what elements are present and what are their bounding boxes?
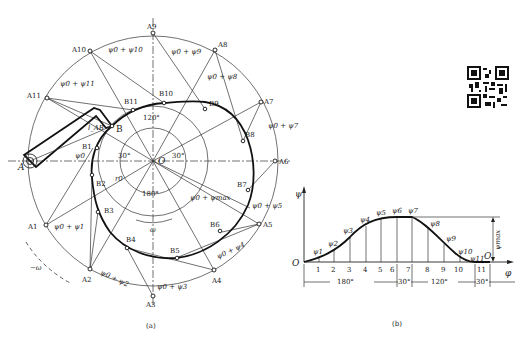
svg-text:ψ9: ψ9: [446, 235, 456, 243]
rot-label-5: ψ0 + ψ5: [252, 202, 283, 210]
svg-text:ψ8: ψ8: [430, 220, 440, 228]
label-A1: A1: [27, 223, 38, 231]
label-B11: B11: [124, 98, 138, 106]
svg-text:5: 5: [378, 266, 382, 274]
label-B7: B7: [237, 181, 247, 189]
label-B1: B1: [82, 143, 92, 151]
rot-label-8: ψ0 + ψ8: [207, 73, 238, 81]
svg-text:1: 1: [316, 266, 320, 274]
rot-label-9: ψ0 + ψ9: [171, 48, 202, 56]
label-B4: B4: [126, 236, 136, 244]
svg-text:9: 9: [441, 266, 445, 274]
segment-30-b: 30°: [476, 278, 488, 286]
psi-max-label: ψ0 + ψmax: [190, 194, 231, 202]
rot-label-11: ψ0 + ψ11: [60, 80, 95, 88]
label-A2: A2: [81, 276, 92, 284]
figure-b: ψmax ψ φ O O 1 2 3 4 5 6 7 8 9 10 11 ψ1 …: [292, 186, 515, 328]
rot-label-1: ψ0 + ψ1: [54, 223, 84, 231]
svg-text:ψ7: ψ7: [408, 207, 418, 215]
caption-b: (b): [392, 320, 402, 328]
curve-labels: ψ1 ψ2 ψ3 ψ4 ψ5 ψ6 ψ7 ψ8 ψ9 ψ10 ψ11: [313, 207, 484, 263]
label-B5: B5: [170, 247, 180, 255]
psi0-label: ψ0: [75, 152, 85, 160]
svg-text:7: 7: [406, 266, 410, 274]
follower-point-label: B: [116, 124, 123, 134]
svg-text:2: 2: [331, 266, 335, 274]
rot-label-2: ψ0 + ψ2: [99, 269, 130, 289]
link-length-label: l_AB: [88, 124, 104, 132]
x-axis-label: φ: [505, 268, 512, 278]
label-B8: B8: [245, 131, 255, 139]
svg-text:ψ3: ψ3: [343, 227, 353, 235]
pivot-label: A: [17, 162, 25, 172]
label-A5: A5: [262, 221, 273, 229]
svg-text:10: 10: [454, 266, 463, 274]
label-A8: A8: [217, 41, 228, 49]
svg-text:ψ11: ψ11: [470, 255, 484, 263]
omega-label: ω: [150, 226, 156, 234]
label-B10: B10: [159, 90, 173, 98]
y-axis-label: ψ: [295, 189, 303, 199]
cam-design-figure: O A B l_AB 120° 30° 30° 180° ψ0 r0 ω −ω …: [0, 0, 524, 341]
label-A7: A7: [263, 98, 274, 106]
svg-text:ψ5: ψ5: [376, 209, 386, 217]
angle-30-left: 30°: [118, 152, 130, 160]
angle-30-right: 30°: [172, 152, 184, 160]
rot-label-10: ψ0 + ψ10: [108, 46, 143, 54]
svg-text:3: 3: [347, 266, 351, 274]
label-A6: A6: [278, 158, 289, 166]
center-label: O: [158, 156, 166, 166]
angle-120: 120°: [143, 114, 160, 122]
label-B2: B2: [96, 180, 106, 188]
y-axis-arrow: [302, 186, 306, 193]
r0-label: r0: [115, 175, 123, 183]
label-B9: B9: [209, 100, 219, 108]
rot-label-4: ψ0 + ψ4: [215, 241, 246, 261]
svg-text:ψ1: ψ1: [313, 248, 323, 256]
qr-code[interactable]: [467, 66, 509, 108]
angle-180: 180°: [142, 190, 159, 198]
svg-text:4: 4: [363, 266, 368, 274]
label-A9: A9: [146, 23, 157, 31]
segment-120: 120°: [431, 278, 448, 286]
label-A4: A4: [211, 277, 222, 285]
minus-omega-label: −ω: [30, 264, 42, 272]
svg-text:ψ6: ψ6: [392, 207, 402, 215]
x-axis-arrow: [507, 260, 514, 264]
label-A3: A3: [145, 301, 156, 309]
figure-a: O A B l_AB 120° 30° 30° 180° ψ0 r0 ω −ω …: [8, 18, 299, 330]
minus-omega-arrow: [26, 242, 72, 284]
segment-180: 180°: [337, 278, 354, 286]
end-origin-label: O: [484, 251, 492, 261]
svg-text:11: 11: [477, 266, 486, 274]
label-A10: A10: [71, 46, 86, 54]
psi-max-label: ψmax: [494, 230, 502, 250]
rot-label-3: ψ0 + ψ3: [157, 283, 188, 291]
omega-arrow: [136, 219, 172, 223]
svg-text:8: 8: [425, 266, 429, 274]
label-A11: A11: [26, 92, 41, 100]
svg-text:6: 6: [390, 266, 395, 274]
svg-text:ψ4: ψ4: [360, 216, 370, 224]
caption-a: (a): [146, 322, 156, 330]
label-B6: B6: [210, 221, 220, 229]
segment-30-a: 30°: [398, 278, 410, 286]
origin-label: O: [292, 258, 300, 268]
tick-labels: 1 2 3 4 5 6 7 8 9 10 11: [316, 266, 486, 274]
rot-label-7: ψ0 + ψ7: [268, 122, 299, 130]
label-B3: B3: [104, 207, 114, 215]
svg-text:ψ2: ψ2: [328, 240, 338, 248]
